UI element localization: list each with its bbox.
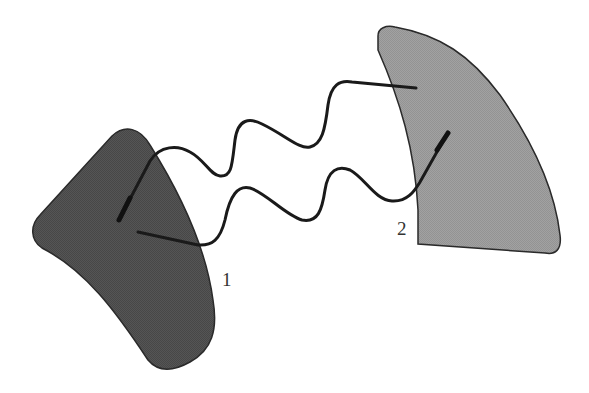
body-1: [33, 129, 215, 369]
body-2-label: 2: [397, 218, 407, 239]
body-1-label: 1: [222, 269, 232, 290]
body-1-shape: [33, 129, 215, 369]
diagram-canvas: 1 2: [0, 0, 589, 393]
